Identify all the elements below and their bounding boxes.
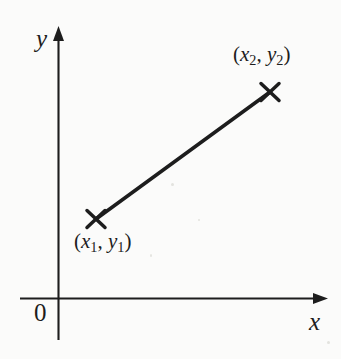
point-1-label-open-paren: ( [74,229,81,253]
point-1-label-close-paren: ) [124,229,131,253]
line-segment-figure: y x 0 (x1, y1) (x2, y2) [0,0,341,359]
scan-speck [171,183,174,186]
point-2-label-y-var: y [267,42,276,66]
point-2-label-open-paren: ( [233,42,240,66]
point-1-label: (x1, y1) [74,231,131,254]
y-axis-arrowhead-icon [53,26,64,41]
point-1-marker-icon [87,211,105,228]
point-1-label-y-var: y [108,229,117,253]
segment-line [96,92,270,219]
point-1-label-separator: , [97,229,108,253]
point-2-label-separator: , [256,42,267,66]
point-2-label: (x2, y2) [233,44,290,67]
point-1-label-x-var: x [81,229,90,253]
point-2-marker-icon [261,84,279,101]
origin-label: 0 [34,300,47,325]
point-2-label-x-var: x [240,42,249,66]
x-axis-arrowhead-icon [313,293,328,304]
scan-speck [198,219,200,221]
scan-speck [150,254,152,257]
y-axis-label: y [36,26,47,51]
x-axis-label: x [309,309,320,334]
point-2-label-close-paren: ) [283,42,290,66]
scan-speck [327,341,330,344]
